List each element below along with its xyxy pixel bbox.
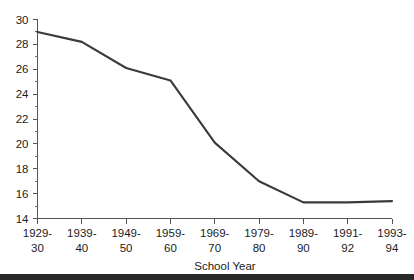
x-tick-label: 1979- <box>244 227 274 239</box>
x-tick-label: 60 <box>164 242 177 254</box>
x-tick-label: 80 <box>253 242 266 254</box>
x-tick-label: 92 <box>341 242 354 254</box>
x-tick-label: 1969- <box>200 227 230 239</box>
y-tick-label: 22 <box>16 113 29 125</box>
x-tick-label: 1991- <box>333 227 363 239</box>
y-tick-label: 30 <box>16 14 29 26</box>
x-tick-label: 30 <box>31 242 44 254</box>
x-tick-label: 1993- <box>377 227 407 239</box>
x-axis: 1929-301939-401949-501959-601969-701979-… <box>23 219 407 254</box>
x-tick-label: 1989- <box>289 227 319 239</box>
x-tick-label: 90 <box>297 242 310 254</box>
x-tick-label: 94 <box>386 242 399 254</box>
x-tick-label: 40 <box>75 242 88 254</box>
y-tick-label: 16 <box>16 188 29 200</box>
y-tick-label: 18 <box>16 163 29 175</box>
x-tick-label: 1959- <box>156 227 186 239</box>
chart-canvas: 141618202224262830 1929-301939-401949-50… <box>0 0 414 280</box>
x-tick-label: 1939- <box>67 227 97 239</box>
data-series <box>38 32 393 202</box>
footer-bar <box>0 274 414 280</box>
series-line <box>38 32 393 202</box>
y-tick-label: 20 <box>16 138 29 150</box>
y-tick-label: 14 <box>16 213 29 225</box>
y-tick-label: 24 <box>16 88 29 100</box>
y-tick-label: 26 <box>16 63 29 75</box>
x-tick-label: 1949- <box>111 227 141 239</box>
x-tick-label: 50 <box>120 242 133 254</box>
y-axis: 141618202224262830 <box>16 14 38 225</box>
y-tick-label: 28 <box>16 38 29 50</box>
x-tick-label: 70 <box>208 242 221 254</box>
x-tick-label: 1929- <box>23 227 53 239</box>
x-axis-title: School Year <box>194 260 256 272</box>
line-chart: 141618202224262830 1929-301939-401949-50… <box>0 0 414 280</box>
